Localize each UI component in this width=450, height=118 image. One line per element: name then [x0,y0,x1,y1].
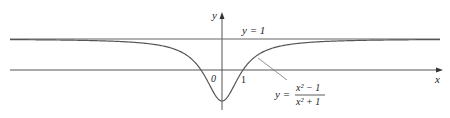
origin-label: 0 [211,73,216,84]
equation-lhs: y = [274,88,290,100]
function-graph: x y y = 1 0 1 y = x² − 1 x² + 1 [0,0,450,118]
y-axis-arrow-icon [220,12,225,19]
asymptote-label: y = 1 [241,24,265,36]
callout-line [258,58,287,80]
x-axis-label: x [434,73,440,85]
tick-one-label: 1 [241,74,246,85]
equation-denominator: x² + 1 [295,96,320,107]
equation-numerator: x² − 1 [295,82,320,93]
y-axis-label: y [211,9,217,21]
x-axis-arrow-icon [436,68,443,73]
